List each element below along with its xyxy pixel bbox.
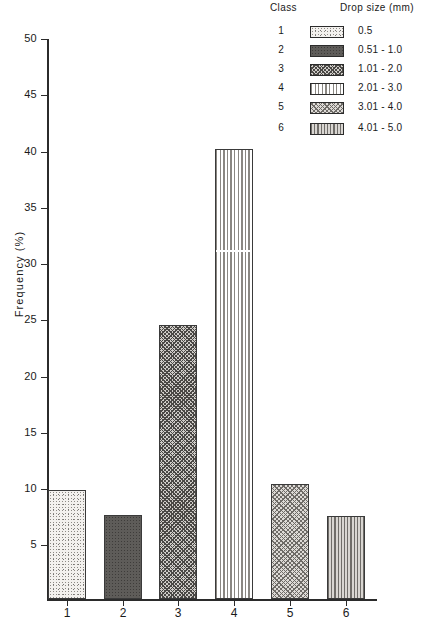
y-tick-label: 35 (3, 201, 37, 213)
bar-class-4[interactable] (215, 149, 253, 599)
y-tick-label: 50 (3, 32, 37, 44)
y-tick (41, 95, 48, 96)
x-tick-label: 4 (214, 606, 254, 619)
y-tick-label: 10 (3, 482, 37, 494)
y-tick-label: 15 (3, 426, 37, 438)
bar-class-1[interactable] (48, 490, 86, 599)
y-tick (41, 208, 48, 209)
y-tick (41, 377, 48, 378)
x-tick-label: 2 (103, 606, 143, 619)
y-tick (41, 545, 48, 546)
y-tick-label: 40 (3, 145, 37, 157)
bar-chart: Frequency (%) 5 10 15 20 25 30 35 40 45 … (0, 0, 434, 619)
x-axis-line (47, 599, 377, 601)
y-tick (41, 264, 48, 265)
bar-class-6[interactable] (327, 516, 365, 599)
y-tick (41, 433, 48, 434)
y-tick (41, 320, 48, 321)
y-tick (41, 489, 48, 490)
y-tick-label: 20 (3, 370, 37, 382)
y-tick (41, 39, 48, 40)
bar-class-5[interactable] (271, 484, 309, 599)
x-tick-label: 3 (158, 606, 198, 619)
scan-artifact-line (216, 250, 252, 252)
y-tick-label: 25 (3, 313, 37, 325)
x-tick-label: 1 (47, 606, 87, 619)
x-tick-label: 5 (270, 606, 310, 619)
y-tick (41, 152, 48, 153)
bar-class-2[interactable] (104, 515, 142, 599)
y-tick-label: 5 (3, 538, 37, 550)
y-tick-label: 30 (3, 257, 37, 269)
bar-class-3[interactable] (159, 325, 197, 599)
x-tick-label: 6 (326, 606, 366, 619)
y-tick-label: 45 (3, 88, 37, 100)
